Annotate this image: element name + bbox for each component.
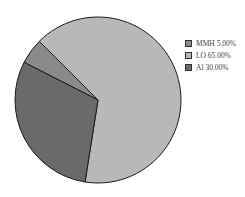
legend-item-al: Al 30.00% [185, 61, 236, 73]
pie-chart [0, 0, 245, 197]
legend-label-lo: LO 65.00% [196, 51, 231, 60]
legend-swatch-lo [185, 52, 192, 59]
legend-swatch-al [185, 64, 192, 71]
legend-label-mmh: MMH 5.00% [196, 39, 236, 48]
legend-swatch-mmh [185, 40, 192, 47]
pie-slices [15, 17, 181, 183]
legend-item-lo: LO 65.00% [185, 49, 236, 61]
legend-label-al: Al 30.00% [196, 63, 229, 72]
legend: MMH 5.00% LO 65.00% Al 30.00% [185, 37, 236, 73]
legend-item-mmh: MMH 5.00% [185, 37, 236, 49]
